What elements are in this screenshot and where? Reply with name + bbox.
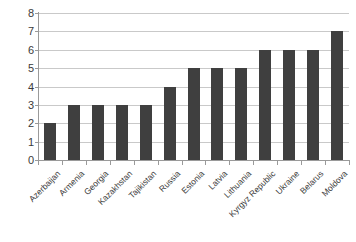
- x-axis-tick-mark: [205, 160, 206, 165]
- x-axis-category-label: Tajikistan: [10, 169, 157, 242]
- x-axis-tick-mark: [62, 160, 63, 165]
- y-axis-tick-label: 5: [4, 63, 34, 74]
- bar: [164, 87, 176, 161]
- x-axis-category-label: Armenia: [0, 169, 86, 242]
- x-axis-tick-mark: [86, 160, 87, 165]
- x-axis-category-label: Belarus: [178, 169, 325, 242]
- bar: [331, 31, 343, 160]
- y-axis-tick-mark: [35, 105, 39, 106]
- x-axis-category-label: Moldova: [202, 169, 349, 242]
- x-axis-tick-mark: [182, 160, 183, 165]
- x-axis-category-label: Georgia: [0, 169, 110, 242]
- y-axis-tick-mark: [35, 87, 39, 88]
- y-axis-tick-mark: [35, 68, 39, 69]
- x-axis-tick-mark: [325, 160, 326, 165]
- y-axis-tick-mark: [35, 13, 39, 14]
- y-axis-tick-label: 6: [4, 44, 34, 55]
- y-axis-tick-mark: [35, 142, 39, 143]
- x-axis-tick-mark: [301, 160, 302, 165]
- plot-area: [38, 13, 349, 160]
- bar: [68, 105, 80, 160]
- bar: [116, 105, 128, 160]
- axis-baseline: [38, 160, 349, 161]
- x-axis-category-label: Azerbaijan: [0, 169, 62, 242]
- y-axis-tick-label: 2: [4, 118, 34, 129]
- x-axis-category-label: Estonia: [58, 169, 205, 242]
- bar: [188, 68, 200, 160]
- bar: [259, 50, 271, 160]
- x-axis-tick-mark: [110, 160, 111, 165]
- y-axis-tick-mark: [35, 160, 39, 161]
- y-axis-tick-label: 4: [4, 81, 34, 92]
- x-axis-tick-mark: [229, 160, 230, 165]
- gridline: [38, 31, 349, 32]
- x-axis-tick-mark: [253, 160, 254, 165]
- x-axis-tick-mark: [349, 160, 350, 165]
- x-axis-category-label: Latvia: [82, 169, 229, 242]
- gridline: [38, 13, 349, 14]
- x-axis-category-label: Kyrgyz Republic: [130, 169, 277, 242]
- y-axis-tick-label: 7: [4, 26, 34, 37]
- bar: [307, 50, 319, 160]
- y-axis-tick-mark: [35, 31, 39, 32]
- x-axis-tick-mark: [158, 160, 159, 165]
- x-axis-category-label: Kazakhstan: [0, 169, 134, 242]
- x-axis-category-label: Ukraine: [154, 169, 301, 242]
- bar: [283, 50, 295, 160]
- y-axis-tick-label: 3: [4, 99, 34, 110]
- bar: [92, 105, 104, 160]
- x-axis-category-label: Russia: [34, 169, 181, 242]
- y-axis-tick-label: 8: [4, 8, 34, 19]
- x-axis-tick-mark: [134, 160, 135, 165]
- x-axis-tick-mark: [277, 160, 278, 165]
- bar: [140, 105, 152, 160]
- y-axis-tick-mark: [35, 123, 39, 124]
- gridline: [38, 50, 349, 51]
- y-axis-tick-label: 0: [4, 155, 34, 166]
- y-axis-tick-label: 1: [4, 136, 34, 147]
- y-axis-labels: 012345678: [0, 13, 34, 160]
- y-axis-tick-mark: [35, 50, 39, 51]
- bar: [211, 68, 223, 160]
- bar: [44, 123, 56, 160]
- x-axis-category-label: Lithuania: [106, 169, 253, 242]
- bar: [235, 68, 247, 160]
- bar-chart: 012345678 AzerbaijanArmeniaGeorgiaKazakh…: [0, 0, 356, 242]
